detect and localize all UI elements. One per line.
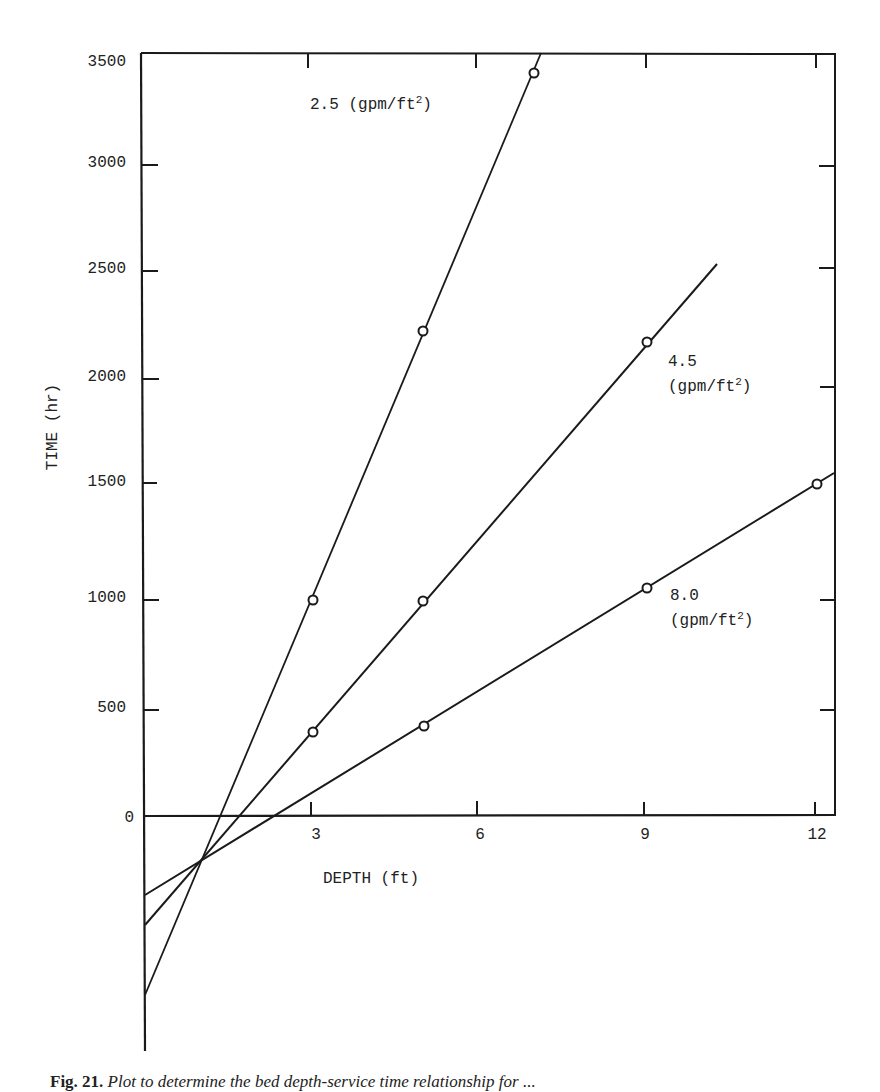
- point-4-5-d5: [419, 597, 428, 606]
- point-2-5-d5: [419, 327, 428, 336]
- x-tick-label: 6: [460, 826, 500, 844]
- plot-frame: [141, 53, 836, 1051]
- y-tick-label: 500: [66, 699, 126, 717]
- top-border: [141, 53, 836, 54]
- y-tick-label: 0: [74, 809, 134, 827]
- series-label-8-0: 8.0 (gpm/ft2): [670, 586, 753, 631]
- y-tick-label: 1500: [66, 473, 126, 491]
- y-tick-label: 3500: [66, 53, 126, 71]
- y-ticks-right: [819, 166, 835, 710]
- point-8-0-d12: [813, 480, 822, 489]
- x-tick-label: 3: [296, 826, 336, 844]
- data-markers: [309, 69, 822, 737]
- point-8-0-d9: [643, 584, 652, 593]
- series-lines: [145, 53, 834, 995]
- x-tick-label: 9: [625, 826, 665, 844]
- y-tick-label: 1000: [66, 589, 126, 607]
- x-axis-zero-line: [143, 815, 835, 816]
- y-tick-label: 3000: [66, 154, 126, 172]
- figure-caption: Fig. 21. Plot to determine the bed depth…: [50, 1072, 536, 1092]
- y-ticks-left: [142, 165, 159, 710]
- point-4-5-d9: [643, 338, 652, 347]
- y-axis-title: TIME (hr): [44, 384, 62, 470]
- x-axis-title: DEPTH (ft): [323, 870, 419, 888]
- y-axis: [141, 53, 145, 1051]
- line-2-5-gpm: [145, 53, 541, 995]
- x-tick-label: 12: [797, 826, 837, 844]
- x-ticks-bottom: [311, 801, 815, 816]
- y-tick-label: 2000: [66, 368, 126, 386]
- series-label-2-5: 2.5 (gpm/ft2): [310, 90, 432, 115]
- y-tick-label: 2500: [66, 260, 126, 278]
- x-ticks-top: [308, 54, 816, 68]
- point-2-5-d7: [530, 69, 539, 78]
- point-8-0-d5: [420, 722, 429, 731]
- point-4-5-d3: [309, 728, 318, 737]
- point-2-5-d3: [309, 596, 318, 605]
- series-label-4-5: 4.5 (gpm/ft2): [668, 352, 751, 397]
